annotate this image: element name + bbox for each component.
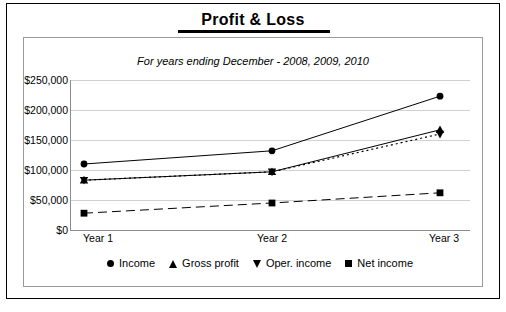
legend-item-oper-income: Oper. income — [253, 258, 331, 270]
circle-marker-icon — [107, 260, 114, 267]
series-line-gross-profit — [84, 130, 440, 180]
data-point-net-income-2 — [269, 200, 276, 207]
triangle-up-marker-icon — [169, 260, 177, 268]
legend-label-oper-income: Oper. income — [266, 258, 331, 270]
series-line-net-income — [84, 193, 440, 213]
data-point-net-income-3 — [437, 189, 444, 196]
data-point-income-2 — [269, 147, 276, 154]
data-point-income-1 — [81, 161, 88, 168]
square-marker-icon — [345, 260, 352, 267]
legend-label-gross-profit: Gross profit — [182, 258, 239, 270]
legend-label-net-income: Net income — [357, 258, 413, 270]
data-point-income-3 — [437, 93, 444, 100]
legend-item-gross-profit: Gross profit — [169, 258, 239, 270]
data-point-oper-income-1 — [80, 177, 88, 185]
data-point-net-income-1 — [81, 210, 88, 217]
chart-page: Profit & Loss For years ending December … — [0, 0, 506, 312]
triangle-down-marker-icon — [253, 260, 261, 268]
legend-item-income: Income — [107, 258, 155, 270]
legend-label-income: Income — [119, 258, 155, 270]
legend-item-net-income: Net income — [345, 258, 413, 270]
chart-legend: Income Gross profit Oper. income Net inc… — [60, 258, 460, 270]
series-line-oper-income — [84, 134, 440, 180]
series-line-income — [84, 96, 440, 164]
data-point-oper-income-3 — [436, 131, 444, 139]
